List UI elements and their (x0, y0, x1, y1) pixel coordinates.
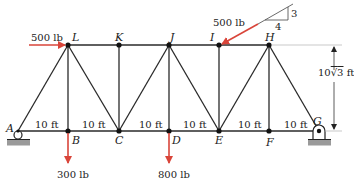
joint-D (166, 128, 171, 133)
load-label-B: 300 lb (57, 170, 89, 180)
span-label-CD: 10 ft (139, 120, 163, 130)
label-D: D (172, 135, 181, 146)
label-F: F (266, 137, 274, 148)
joint-C (116, 128, 121, 133)
web-members (18, 45, 319, 131)
span-label-DE: 10 ft (183, 120, 207, 130)
slope-rise: 3 (291, 9, 297, 19)
label-G: G (313, 116, 322, 127)
joint-L (65, 42, 70, 47)
label-B: B (72, 135, 80, 146)
label-J: J (170, 32, 174, 43)
joint-I (216, 42, 221, 47)
label-A: A (6, 123, 14, 134)
label-E: E (215, 135, 223, 146)
label-I: I (210, 32, 214, 43)
label-H: H (265, 32, 275, 43)
joint-E (216, 128, 221, 133)
joint-F (266, 128, 271, 133)
label-C: C (115, 135, 123, 146)
label-L: L (72, 32, 79, 43)
span-label-FG: 10 ft (284, 120, 308, 130)
span-label-BC: 10 ft (82, 120, 106, 130)
pin-support-G (308, 125, 331, 146)
joint-B (65, 128, 70, 133)
load-label-L: 500 lb (31, 33, 63, 43)
span-label-AB: 10 ft (35, 120, 59, 130)
slope-run: 4 (275, 22, 281, 32)
load-label-I: 500 lb (213, 18, 245, 28)
label-K: K (115, 32, 123, 43)
load-label-D: 800 lb (158, 170, 190, 180)
height-label: 10√3 ft (318, 68, 354, 78)
span-label-EF: 10 ft (238, 120, 262, 130)
